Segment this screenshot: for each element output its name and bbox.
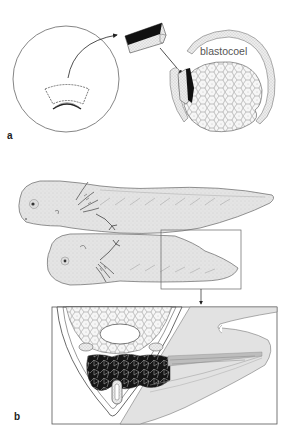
panel-b-label: b	[14, 411, 20, 422]
panel-a: blastocoel	[13, 23, 275, 132]
figure: blastocoel	[0, 0, 289, 429]
donor-embryo-circle	[13, 26, 119, 132]
panel-b	[19, 181, 277, 424]
blastocoel-label: blastocoel	[200, 45, 247, 57]
lower-larva-body	[47, 234, 238, 285]
upper-larva-body	[19, 181, 274, 234]
dark-tissue-mass	[87, 354, 170, 390]
panel-a-label: a	[7, 130, 13, 141]
figure-illustration: blastocoel	[0, 0, 289, 429]
yolk-cell-mass	[184, 62, 262, 132]
tissue-block	[125, 23, 166, 53]
notochord	[100, 324, 140, 344]
